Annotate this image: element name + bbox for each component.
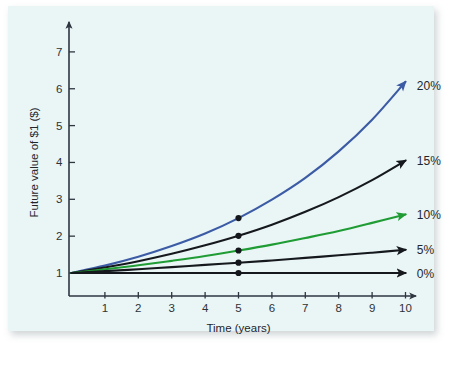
series-label-0pct: 0% [417, 267, 435, 281]
y-axis-tick-label: 4 [56, 156, 63, 168]
y-axis-tick-label: 2 [56, 230, 62, 242]
y-axis-title: Future value of $1 ($) [28, 107, 40, 217]
x-axis-tick-label: 9 [369, 302, 375, 314]
y-axis-tick-label: 3 [56, 193, 62, 205]
x-axis-tick-label: 8 [335, 302, 341, 314]
x-axis-tick-label: 10 [399, 302, 412, 314]
series-label-5pct: 5% [417, 243, 435, 257]
x-axis-tick-label: 6 [269, 302, 275, 314]
y-axis-tick-label: 7 [56, 46, 62, 58]
series-marker-15pct [235, 233, 241, 239]
series-marker-0pct [235, 270, 241, 276]
x-axis-tick-label: 7 [302, 302, 308, 314]
figure-canvas: 123456712345678910Time (years)Future val… [0, 0, 474, 365]
series-marker-10pct [235, 247, 241, 253]
series-label-20pct: 20% [417, 79, 441, 93]
x-axis-tick-label: 4 [202, 302, 209, 314]
series-marker-20pct [235, 215, 241, 221]
series-line-20pct [72, 82, 406, 273]
y-axis-tick-label: 6 [56, 83, 62, 95]
series-marker-5pct [235, 260, 241, 266]
y-axis-tick-label: 5 [56, 120, 62, 132]
x-axis-tick-label: 1 [102, 302, 108, 314]
x-axis-title: Time (years) [206, 322, 270, 334]
x-axis-tick-label: 2 [135, 302, 141, 314]
x-axis-tick-label: 5 [235, 302, 241, 314]
y-axis-tick-label: 1 [56, 267, 62, 279]
series-label-15pct: 15% [417, 154, 441, 168]
chart-plot: 123456712345678910Time (years)Future val… [0, 0, 474, 365]
series-label-10pct: 10% [417, 208, 441, 222]
x-axis-tick-label: 3 [168, 302, 174, 314]
